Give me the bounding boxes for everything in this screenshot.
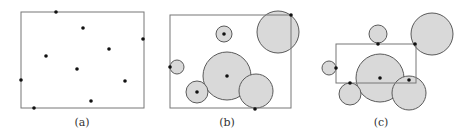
disk	[170, 60, 184, 74]
panel-a	[19, 10, 145, 110]
disk	[339, 83, 361, 105]
point	[81, 26, 85, 30]
point	[378, 76, 382, 80]
point	[89, 99, 93, 103]
point	[289, 13, 293, 17]
point	[407, 78, 411, 82]
figure-canvas	[0, 0, 474, 137]
point	[222, 32, 226, 36]
disk	[322, 61, 336, 75]
point	[123, 79, 127, 83]
point	[75, 67, 79, 71]
point	[44, 54, 48, 58]
disk	[369, 25, 387, 43]
disk	[239, 74, 273, 108]
point	[413, 42, 417, 46]
point	[32, 106, 36, 110]
disk	[411, 13, 453, 55]
caption-c: (c)	[374, 116, 389, 129]
point	[376, 42, 380, 46]
point	[141, 37, 145, 41]
point	[19, 78, 23, 82]
point	[225, 74, 229, 78]
point	[54, 10, 58, 14]
caption-a: (a)	[74, 116, 89, 129]
point	[195, 90, 199, 94]
point	[253, 107, 257, 111]
panel-b	[168, 11, 299, 111]
panel-c	[322, 13, 453, 110]
caption-b: (b)	[219, 116, 235, 129]
point	[107, 47, 111, 51]
point	[168, 65, 172, 69]
point	[348, 81, 352, 85]
point	[334, 66, 338, 70]
disk	[257, 11, 299, 53]
